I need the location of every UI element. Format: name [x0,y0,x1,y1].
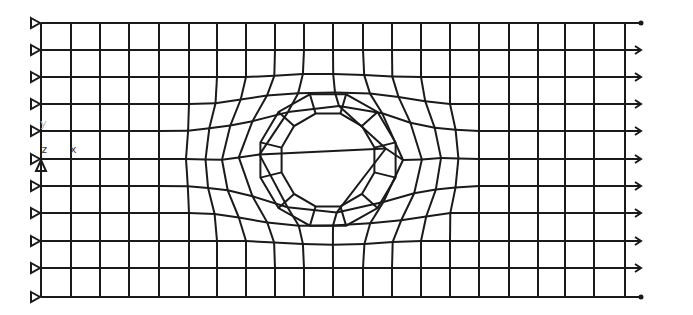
mesh-edge-vertical [208,188,215,214]
mesh-edge-horizontal [414,190,436,194]
roller-support-icon [31,236,40,246]
mesh-edge-horizontal [298,93,335,94]
mesh-edge-vertical [392,242,393,268]
mesh-edge-horizontal [364,75,392,77]
mesh-edge-horizontal [274,243,303,244]
mesh-edge-vertical [222,126,230,160]
mesh-edge-vertical [298,74,303,93]
mesh-edge-vertical [450,104,456,130]
mesh-edge-vertical [239,218,246,242]
mesh-edge-horizontal [239,218,267,223]
mesh-edge-vertical [414,160,422,194]
mesh-edge-vertical [456,158,459,187]
mesh-edge-vertical [216,77,218,103]
mesh-edge-vertical [410,123,422,160]
axis-label-y: y [40,117,47,130]
roller-support-icon [31,154,40,164]
mesh-edge-vertical [299,226,303,244]
axis-label-z: z [41,143,48,156]
mesh-edge-vertical [421,77,425,101]
mesh-edge-horizontal [333,244,365,245]
mesh-edge-horizontal [188,128,209,131]
mesh-edge-horizontal [274,74,303,76]
mesh-edge-horizontal [246,241,274,243]
hole-spoke [340,206,346,225]
mesh-edge-vertical [267,76,274,96]
mesh-edge-horizontal [215,214,239,218]
hole-polygon [282,114,375,207]
mesh-edge-vertical [209,103,215,128]
mesh-edge-vertical [426,190,436,217]
roller-support-icon [31,72,40,82]
mesh-edge-horizontal [228,190,253,196]
mesh-edge-horizontal [288,207,337,212]
mesh-edge-horizontal [456,130,479,131]
mesh-edge-horizontal [399,97,426,101]
mesh-edge-vertical [303,244,304,268]
mesh-lines [41,23,625,297]
mesh-edge-vertical [393,220,402,242]
mesh-edge-horizontal [410,123,434,128]
mesh-edge-horizontal [303,244,333,245]
mesh-edge-horizontal [267,93,298,95]
roller-support-icon [31,99,40,109]
mesh-edge-vertical [239,121,253,157]
mesh-edge-vertical [421,217,426,242]
mesh-edge-vertical [228,190,239,217]
mesh-edge-vertical [274,50,275,76]
mesh-canvas [0,0,693,315]
hole-spoke [362,112,378,126]
mesh-edge-vertical [239,157,253,196]
mesh-edge-horizontal [222,157,239,159]
mesh-edge-vertical [215,214,217,241]
mesh-edge-vertical [186,159,188,186]
mesh-edge-horizontal [403,160,422,161]
mesh-edge-horizontal [189,103,216,104]
mesh-edge-horizontal [333,74,364,75]
mesh-edge-vertical [425,101,435,128]
mesh-edge-horizontal [208,188,228,190]
mesh-edge-horizontal [458,158,479,159]
roller-support-icon [31,181,40,191]
mesh-edge-vertical [392,77,398,97]
mesh-edge-horizontal [230,121,252,125]
mesh-edge-horizontal [189,213,215,214]
roller-support-icon [31,263,40,273]
load-end-dot [640,22,643,25]
mesh-edge-horizontal [260,149,386,155]
mesh-edge-vertical [267,223,274,243]
mesh-edge-horizontal [246,76,274,77]
mesh-edge-vertical [364,223,370,244]
mesh-edge-horizontal [364,242,392,244]
mesh-edge-vertical [303,50,304,74]
mesh-edge-vertical [363,244,364,268]
mesh-edge-vertical [364,75,370,94]
mesh-edge-horizontal [401,217,426,221]
left-roller-supports [31,18,40,302]
mesh-edge-horizontal [370,220,401,223]
mesh-edge-vertical [206,128,210,159]
mesh-edge-vertical [222,160,228,191]
mesh-edge-vertical [333,212,337,225]
mesh-edge-vertical [435,128,441,158]
mesh-edge-horizontal [435,128,456,130]
roller-support-icon [31,45,40,55]
mesh-edge-vertical [456,130,459,159]
mesh-edge-vertical [363,50,364,75]
mesh-edge-vertical [450,188,455,214]
roller-support-icon [31,126,40,136]
mesh-edge-horizontal [267,223,299,226]
mesh-edge-vertical [333,74,335,93]
mesh-edge-vertical [186,131,188,159]
mesh-edge-vertical [274,243,275,269]
mesh-edge-horizontal [456,186,480,188]
mesh-edge-horizontal [370,94,399,97]
roller-support-icon [31,292,40,302]
mesh-edge-vertical [188,104,189,131]
mesh-edge-vertical [230,100,240,126]
mesh-edge-horizontal [422,158,441,159]
right-load-arrows [625,22,643,299]
roller-support-icon [31,18,40,28]
roller-support-icon [31,208,40,218]
axis-label-x: x [70,143,77,156]
